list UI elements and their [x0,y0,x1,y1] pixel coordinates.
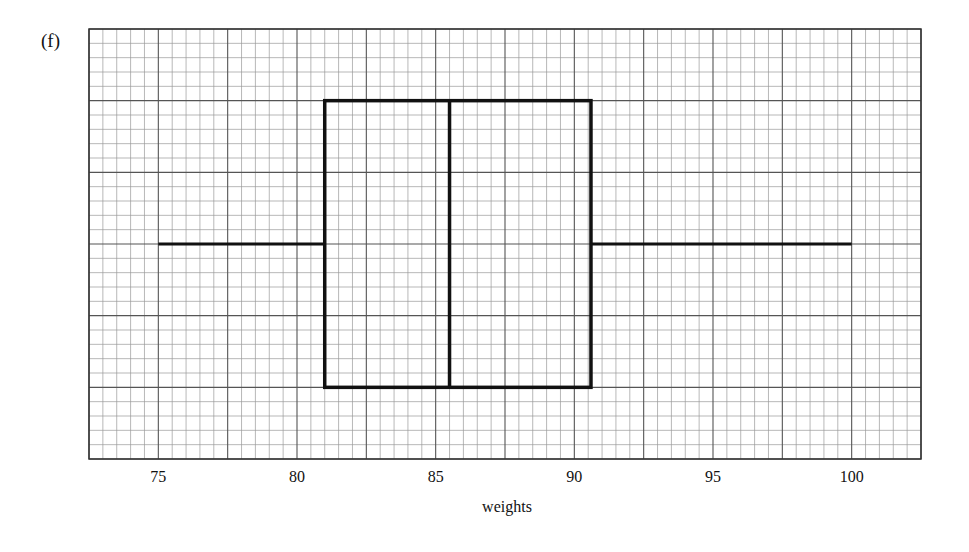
x-tick-label: 90 [566,468,582,485]
x-tick-label: 100 [840,468,864,485]
x-axis-tick-labels: 7580859095100 [150,468,863,485]
x-tick-label: 95 [705,468,721,485]
x-axis-title: weights [482,498,532,516]
box-plot-chart: 7580859095100 weights [0,0,969,552]
x-tick-label: 85 [428,468,444,485]
x-tick-label: 75 [150,468,166,485]
x-tick-label: 80 [289,468,305,485]
